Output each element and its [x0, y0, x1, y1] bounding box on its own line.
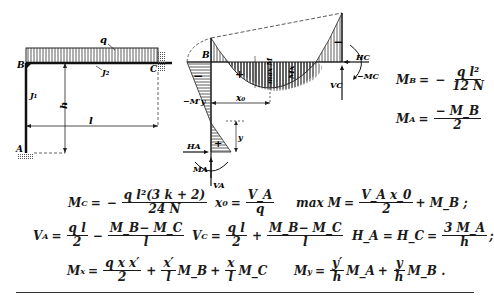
md-minus-left: −: [193, 69, 203, 83]
label-a: A: [15, 144, 23, 154]
distributed-load: [26, 48, 158, 63]
frame-diagram: q B C A J₂ J₁ h l: [15, 34, 172, 159]
md-plus-bottom: +: [214, 138, 222, 149]
eq-x0: x0 = V_Aq: [215, 189, 276, 216]
structural-figure: q B C A J₂ J₁ h l: [0, 0, 487, 200]
eq-hahc: H_A = H_C = 3 M_Ah ;: [352, 222, 494, 249]
md-ha: HA: [186, 141, 201, 151]
eq-mc: MC = − q l²(3 k + 2)24 N: [68, 189, 209, 216]
md-max-m: max M: [265, 57, 274, 84]
md-mx: Mx: [286, 65, 296, 80]
label-b: B: [16, 60, 25, 70]
label-j2: J₂: [100, 67, 110, 77]
label-q: q: [100, 34, 107, 45]
label-c: C: [150, 64, 158, 74]
md-ma: MA: [192, 164, 208, 174]
md-minus-right: −: [333, 35, 343, 49]
md-label-b: B: [201, 50, 210, 60]
eq-vc: VC = q l2 + M_B− M_Cl: [192, 222, 345, 249]
label-j1: J₁: [28, 90, 37, 100]
md-plus-top: +: [235, 68, 244, 81]
md-mc: −MC: [357, 71, 380, 81]
eq-my: My = y′h M_A + yh M_B .: [294, 257, 445, 284]
md-x0: x₀: [235, 93, 245, 103]
bottom-rule: [16, 292, 474, 293]
eq-ma: MA = − M_B2: [396, 105, 483, 132]
label-l: l: [89, 115, 93, 126]
md-my: −M′y: [183, 96, 207, 106]
eq-mx: Mx = q x x′2 + x′l M_B + xl M_C: [67, 257, 267, 284]
eq-mb: MB = − q l²12 N: [396, 66, 488, 93]
md-y-dim: y: [237, 132, 244, 142]
eq-maxm: max M = V_A x_02 + M_B ;: [296, 189, 468, 216]
md-vc: VC: [330, 80, 343, 90]
eq-va: VA = q l2 − M_B− M_Cl: [33, 222, 186, 249]
fixed-support-c: [158, 52, 166, 72]
label-h: h: [58, 102, 69, 109]
md-hc: HC: [355, 52, 371, 62]
